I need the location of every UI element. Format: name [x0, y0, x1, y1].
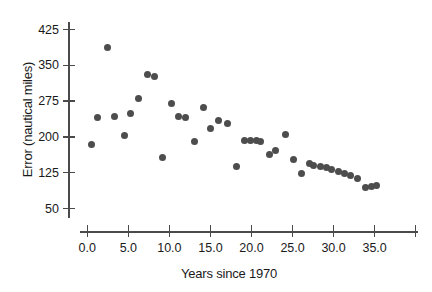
- y-tick-label: 50: [19, 203, 59, 215]
- data-point: [144, 71, 151, 78]
- scatter-chart: Error (nautical miles) Years since 1970 …: [0, 0, 432, 292]
- data-point: [191, 138, 198, 145]
- data-point: [94, 114, 101, 121]
- data-point: [233, 163, 240, 170]
- x-axis-label: Years since 1970: [0, 266, 432, 281]
- data-point: [354, 175, 361, 182]
- data-point: [159, 154, 166, 161]
- data-point: [168, 100, 175, 107]
- x-tick: [128, 225, 130, 237]
- x-axis-line: [80, 231, 418, 233]
- data-point: [200, 104, 207, 111]
- x-tick-label: 5.0: [106, 241, 150, 255]
- x-tick-label: 20.0: [230, 241, 274, 255]
- x-tick-label: 0.0: [65, 241, 109, 255]
- data-point: [215, 117, 222, 124]
- y-tick: [63, 100, 75, 102]
- data-point: [272, 147, 279, 154]
- data-point: [290, 156, 297, 163]
- data-point: [310, 162, 317, 169]
- y-tick-label: 350: [19, 59, 59, 71]
- y-tick: [63, 65, 75, 67]
- data-point: [257, 138, 264, 145]
- x-tick-label: 15.0: [188, 241, 232, 255]
- x-tick: [87, 225, 89, 237]
- y-tick-label: 200: [19, 131, 59, 143]
- data-point: [373, 182, 380, 189]
- x-tick: [292, 225, 294, 237]
- x-tick: [374, 225, 376, 237]
- y-tick-label: 425: [19, 24, 59, 36]
- y-tick-label: 125: [19, 167, 59, 179]
- data-point: [111, 113, 118, 120]
- y-axis-line: [68, 22, 70, 218]
- data-point: [151, 73, 158, 80]
- data-point: [224, 120, 231, 127]
- data-point: [135, 95, 142, 102]
- data-point: [104, 44, 111, 51]
- data-point: [182, 114, 189, 121]
- x-tick: [415, 225, 417, 237]
- y-tick-label: 275: [19, 95, 59, 107]
- data-point: [127, 110, 134, 117]
- x-tick-label: 10.0: [147, 241, 191, 255]
- data-point: [298, 170, 305, 177]
- x-tick-label: 30.0: [312, 241, 356, 255]
- data-point: [88, 141, 95, 148]
- x-tick-label: 25.0: [271, 241, 315, 255]
- data-point: [282, 131, 289, 138]
- y-tick: [63, 172, 75, 174]
- data-point: [121, 132, 128, 139]
- data-point: [175, 113, 182, 120]
- x-tick: [251, 225, 253, 237]
- x-tick: [210, 225, 212, 237]
- y-tick: [63, 136, 75, 138]
- y-tick: [63, 29, 75, 31]
- x-tick-label: 35.0: [353, 241, 397, 255]
- y-tick: [63, 208, 75, 210]
- data-point: [207, 125, 214, 132]
- x-tick: [169, 225, 171, 237]
- x-tick: [333, 225, 335, 237]
